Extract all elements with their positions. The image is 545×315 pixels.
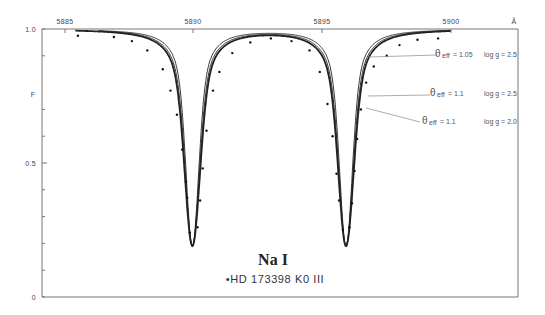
observed-point (77, 35, 79, 37)
observed-point (205, 130, 207, 132)
observed-point (185, 181, 187, 183)
x-tick-label-5885: 5885 (57, 18, 74, 25)
observed-point (365, 81, 367, 83)
observed-point (249, 41, 251, 43)
model-curve-2 (99, 31, 451, 246)
observed-point (416, 39, 418, 41)
logg-value: log g = 2.0 (484, 118, 517, 126)
observed-point (360, 108, 362, 110)
observed-points (77, 35, 440, 234)
observed-point (181, 148, 183, 150)
observed-point (319, 71, 321, 73)
theta-symbol: θ (422, 115, 428, 126)
observed-point (162, 68, 164, 70)
observed-point (348, 226, 350, 228)
observed-point (196, 226, 198, 228)
logg-value: log g = 2.5 (484, 90, 517, 98)
observed-point (270, 37, 272, 39)
observed-point (437, 37, 439, 39)
model-curve-3 (75, 31, 450, 246)
observed-point (342, 229, 344, 231)
observed-point (331, 135, 333, 137)
observed-point (356, 138, 358, 140)
y-axis-label: F (31, 91, 36, 98)
observed-point (308, 49, 310, 51)
annotation-theta-105-logg-25: θ eff = 1.05 log g = 2.5 (435, 48, 517, 59)
observed-point (189, 232, 191, 234)
observed-point (186, 197, 188, 199)
x-tick-label-5890: 5890 (185, 18, 202, 25)
y-tick-label-05: 0.5 (25, 160, 36, 167)
model-curves (75, 30, 450, 246)
theta-symbol: θ (430, 87, 436, 98)
observed-point (231, 52, 233, 54)
observed-point (176, 114, 178, 116)
annotation-theta-11-logg-20: θ eff = 1.1 log g = 2.0 (422, 115, 517, 126)
theta-value: = 1.05 (453, 51, 473, 58)
x-tick-label-5895: 5895 (314, 18, 331, 25)
eff-subscript: eff (442, 52, 450, 59)
chart-figure: 5885 5890 5895 5900 Å 1.0 0.5 0 F θ eff … (0, 0, 545, 315)
observed-point (335, 173, 337, 175)
observed-point (146, 49, 148, 51)
observed-point (398, 44, 400, 46)
observed-point (373, 65, 375, 67)
theta-value: = 1.1 (440, 118, 456, 125)
x-tick-label-5900: 5900 (443, 18, 460, 25)
chart-subtitle: •HD 173398 K0 III (226, 273, 324, 285)
observed-point (202, 167, 204, 169)
y-axis-ticks (42, 29, 47, 297)
observed-point (212, 89, 214, 91)
annotation-leaders (366, 55, 437, 122)
x-axis-unit: Å (512, 17, 517, 25)
observed-point (290, 40, 292, 42)
observed-point (218, 71, 220, 73)
theta-value: = 1.1 (448, 90, 464, 97)
spectrum-plot: 5885 5890 5895 5900 Å 1.0 0.5 0 F θ eff … (0, 0, 545, 315)
logg-value: log g = 2.5 (484, 51, 517, 59)
y-tick-label-0: 0 (32, 294, 36, 301)
observed-point (353, 170, 355, 172)
observed-point (326, 103, 328, 105)
observed-point (338, 199, 340, 201)
eff-subscript: eff (437, 91, 445, 98)
model-curve-1 (99, 30, 451, 246)
observed-point (113, 36, 115, 38)
chart-title: Na I (258, 251, 288, 268)
y-tick-label-1: 1.0 (25, 26, 36, 33)
observed-point (199, 199, 201, 201)
observed-point (351, 202, 353, 204)
observed-point (169, 89, 171, 91)
observed-point (131, 40, 133, 42)
annotation-theta-11-logg-25: θ eff = 1.1 log g = 2.5 (430, 87, 517, 98)
theta-symbol: θ (435, 48, 441, 59)
eff-subscript: eff (429, 119, 437, 126)
